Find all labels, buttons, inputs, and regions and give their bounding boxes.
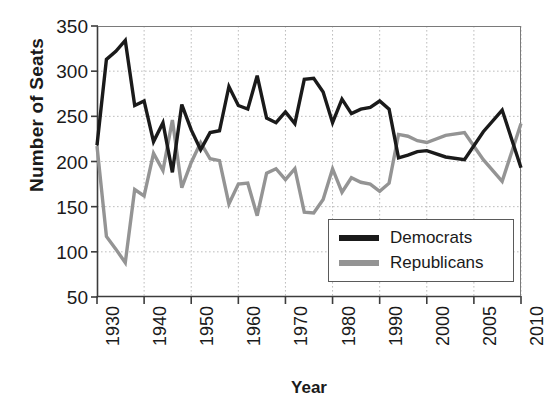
legend-item-democrats: Democrats	[329, 225, 513, 250]
legend-item-republicans: Republicans	[329, 250, 513, 275]
x-tick-label: 1980	[340, 306, 358, 346]
x-tick-label: 1960	[245, 306, 263, 346]
legend-swatch-republicans	[339, 260, 379, 266]
x-tick-label: 2005	[481, 306, 499, 346]
legend: Democrats Republicans	[328, 219, 514, 282]
x-tick-label: 1950	[198, 306, 216, 346]
x-tick-label: 1990	[387, 306, 405, 346]
x-axis-title: Year	[97, 378, 521, 398]
legend-label-republicans: Republicans	[390, 254, 484, 271]
x-tick-label: 2010	[528, 306, 546, 346]
legend-label-democrats: Democrats	[390, 229, 472, 246]
x-tick-label: 1970	[292, 306, 310, 346]
x-tick-label: 2000	[434, 306, 452, 346]
x-tick-label: 1940	[151, 306, 169, 346]
legend-swatch-democrats	[339, 235, 379, 241]
x-tick-label: 1930	[104, 306, 122, 346]
